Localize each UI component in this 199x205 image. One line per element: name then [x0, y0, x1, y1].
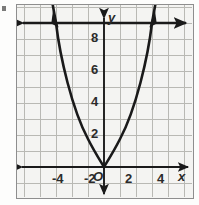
x-axis-label: x [178, 170, 185, 183]
y-tick-label-4: 4 [91, 95, 98, 108]
y-axis-label: y [108, 11, 115, 24]
x-tick-label--4: -4 [52, 172, 64, 185]
coordinate-plane: -4 -2 2 4 2 4 6 8 O x y [16, 4, 194, 199]
figure-canvas: -4 -2 2 4 2 4 6 8 O x y [0, 0, 199, 205]
x-tick-label-2: 2 [125, 172, 132, 185]
y-tick-label-8: 8 [91, 31, 98, 44]
origin-label: O [93, 170, 103, 183]
x-tick-label-4: 4 [157, 172, 164, 185]
y-tick-label-2: 2 [91, 127, 98, 140]
list-item-marker [2, 6, 6, 11]
y-tick-label-6: 6 [91, 63, 98, 76]
graph-svg [17, 5, 192, 197]
